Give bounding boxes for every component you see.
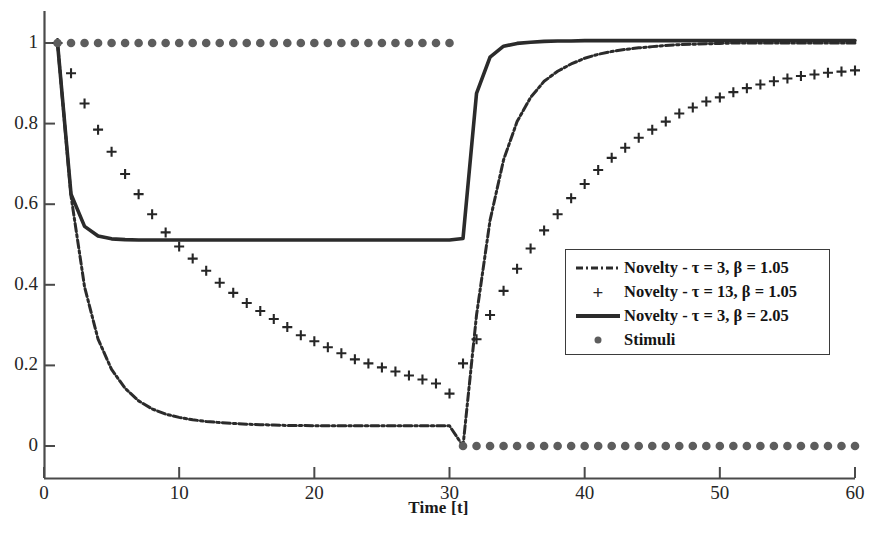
stimuli-dot-marker <box>445 39 454 48</box>
plus-marker <box>431 379 441 389</box>
stimuli-dot-marker <box>567 442 576 451</box>
stimuli-dot-marker <box>580 442 589 451</box>
plus-marker <box>134 189 144 199</box>
plus-marker <box>634 133 644 143</box>
plus-marker <box>836 67 846 77</box>
plus-marker <box>580 179 590 189</box>
stimuli-dot-marker <box>391 39 400 48</box>
y-tick-label: 0.4 <box>0 273 38 295</box>
y-tick-label: 1 <box>0 31 38 53</box>
stimuli-dot-marker <box>756 442 765 451</box>
plus-marker <box>107 147 117 157</box>
plus-marker <box>255 306 265 316</box>
plus-marker <box>755 80 765 90</box>
stimuli-dot-marker <box>553 442 562 451</box>
plus-marker <box>147 209 157 219</box>
plus-marker <box>701 96 711 106</box>
stimuli-dot-marker <box>229 39 238 48</box>
plus-marker <box>458 358 468 368</box>
stimuli-dot-marker <box>607 442 616 451</box>
stimuli-dot-marker <box>540 442 549 451</box>
plus-marker <box>688 102 698 112</box>
stimuli-dot-marker <box>107 39 116 48</box>
solid-line-swatch-icon <box>572 304 624 328</box>
legend-item-label: Novelty - τ = 13, β = 1.05 <box>624 284 797 301</box>
plus-marker <box>674 109 684 119</box>
plus-marker <box>728 87 738 97</box>
stimuli-dot-marker <box>432 39 441 48</box>
plus-marker <box>647 125 657 135</box>
plus-marker <box>201 266 211 276</box>
plus-marker <box>336 348 346 358</box>
stimuli-dot-marker <box>472 442 481 451</box>
stimuli-dot-marker <box>283 39 292 48</box>
solid-curve <box>58 41 855 240</box>
plus-marker <box>553 209 563 219</box>
dot-marker-swatch-icon <box>572 328 624 352</box>
stimuli-dot-marker <box>121 39 130 48</box>
legend-item-label: Stimuli <box>624 332 675 349</box>
plus-marker <box>174 242 184 252</box>
series-0 <box>58 43 855 446</box>
stimuli-dot-marker <box>351 39 360 48</box>
plus-marker <box>485 310 495 320</box>
stimuli-dot-marker <box>364 39 373 48</box>
stimuli-dot-marker <box>161 39 170 48</box>
legend-entries: Novelty - τ = 3, β = 1.05 + Novelty - τ … <box>566 250 829 352</box>
plus-marker <box>539 225 549 235</box>
plus-marker <box>796 71 806 81</box>
plus-marker <box>512 264 522 274</box>
stimuli-dot-marker <box>297 39 306 48</box>
stimuli-dot-marker <box>499 442 508 451</box>
plus-marker <box>823 68 833 78</box>
stimuli-dot-marker <box>716 442 725 451</box>
stimuli-dot-marker <box>269 39 278 48</box>
dashdot-line-swatch-icon <box>572 256 624 280</box>
stimuli-dot-marker <box>810 442 819 451</box>
legend-item-label: Novelty - τ = 3, β = 2.05 <box>624 308 789 325</box>
plus-marker <box>742 83 752 93</box>
legend-item-label: Novelty - τ = 3, β = 1.05 <box>624 260 789 277</box>
legend-item-novelty-tau13-beta105[interactable]: + Novelty - τ = 13, β = 1.05 <box>572 280 829 304</box>
plus-marker <box>188 254 198 264</box>
plus-marker-swatch-icon: + <box>572 280 624 304</box>
plus-marker <box>323 342 333 352</box>
plus-marker <box>769 76 779 86</box>
plus-marker <box>120 169 130 179</box>
stimuli-dot-marker <box>53 39 62 48</box>
stimuli-dot-marker <box>513 442 522 451</box>
dashdot-curve <box>58 43 855 446</box>
plus-marker <box>269 314 279 324</box>
stimuli-dot-marker <box>634 442 643 451</box>
legend-item-novelty-tau3-beta205[interactable]: Novelty - τ = 3, β = 2.05 <box>572 304 829 328</box>
stimuli-dot-marker <box>770 442 779 451</box>
stimuli-dot-marker <box>486 442 495 451</box>
plus-marker <box>161 227 171 237</box>
stimuli-dot-marker <box>661 442 670 451</box>
plus-marker <box>363 358 373 368</box>
plus-marker <box>228 288 238 298</box>
plus-marker <box>242 298 252 308</box>
series-3 <box>53 39 859 451</box>
plus-marker <box>809 69 819 79</box>
legend-item-novelty-tau3-beta105[interactable]: Novelty - τ = 3, β = 1.05 <box>572 256 829 280</box>
stimuli-dot-marker <box>148 39 157 48</box>
plus-marker <box>445 389 455 399</box>
plus-marker <box>296 330 306 340</box>
plus-marker <box>526 244 536 254</box>
stimuli-dot-marker <box>702 442 711 451</box>
stimuli-dot-marker <box>134 39 143 48</box>
plus-marker <box>93 125 103 135</box>
plus-marker <box>350 354 360 364</box>
series-2 <box>58 41 855 240</box>
plus-marker <box>404 370 414 380</box>
stimuli-dot-marker <box>215 39 224 48</box>
y-tick-label: 0 <box>0 434 38 456</box>
y-tick-label: 0.2 <box>0 353 38 375</box>
plus-marker <box>607 153 617 163</box>
legend-item-stimuli[interactable]: Stimuli <box>572 328 829 352</box>
stimuli-dot-marker <box>188 39 197 48</box>
plus-marker <box>661 117 671 127</box>
plus-marker <box>566 193 576 203</box>
axes <box>44 11 855 479</box>
